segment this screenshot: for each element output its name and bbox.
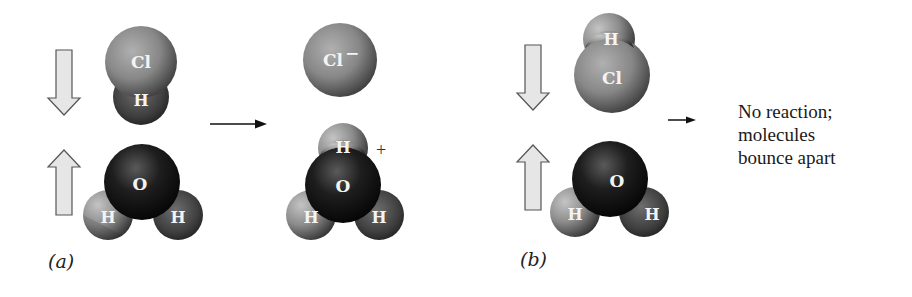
up-arrow-icon bbox=[517, 145, 549, 210]
outcome-line: bounce apart bbox=[738, 146, 836, 169]
negative-charge: − bbox=[345, 43, 359, 63]
oxygen-label: O bbox=[336, 176, 351, 196]
reaction-arrow-icon bbox=[668, 117, 696, 124]
chloride-label: Cl bbox=[323, 50, 344, 70]
hydrogen-label: H bbox=[567, 205, 582, 224]
outcome-line: molecules bbox=[738, 123, 836, 146]
hydrogen-label: H bbox=[133, 91, 148, 110]
outcome-note: No reaction; molecules bounce apart bbox=[738, 100, 836, 169]
down-arrow-icon bbox=[517, 45, 549, 110]
hcl-molecule: H Cl bbox=[574, 13, 650, 113]
panel-a: Cl H O H H Cl − bbox=[48, 23, 404, 240]
reaction-arrow-icon bbox=[210, 120, 267, 129]
panel-b: H Cl O H H bbox=[517, 13, 696, 237]
down-arrow-icon bbox=[48, 50, 80, 115]
water-molecule: O H H bbox=[83, 144, 203, 240]
chloride-ion: Cl − bbox=[303, 23, 377, 97]
positive-charge: + bbox=[376, 140, 386, 160]
hydrogen-label: H bbox=[170, 208, 185, 227]
water-molecule: O H H bbox=[550, 141, 669, 237]
outcome-line: No reaction; bbox=[738, 100, 836, 123]
up-arrow-icon bbox=[48, 150, 80, 215]
hydronium-ion: H O H H + bbox=[286, 123, 404, 240]
panel-b-label: (b) bbox=[520, 248, 547, 270]
oxygen-label: O bbox=[133, 174, 148, 194]
hydrogen-label: H bbox=[303, 208, 318, 227]
chlorine-label: Cl bbox=[131, 52, 152, 72]
acid-base-collision-figure: Cl H O H H Cl − bbox=[0, 0, 912, 297]
hydrogen-label: H bbox=[603, 30, 618, 49]
hydrogen-label: H bbox=[644, 205, 659, 224]
hydrogen-label: H bbox=[100, 208, 115, 227]
hcl-molecule: Cl H bbox=[105, 26, 177, 125]
hydrogen-label: H bbox=[335, 138, 350, 157]
panel-a-label: (a) bbox=[48, 250, 74, 272]
hydrogen-label: H bbox=[371, 208, 386, 227]
oxygen-label: O bbox=[610, 171, 625, 191]
chlorine-label: Cl bbox=[602, 68, 623, 88]
